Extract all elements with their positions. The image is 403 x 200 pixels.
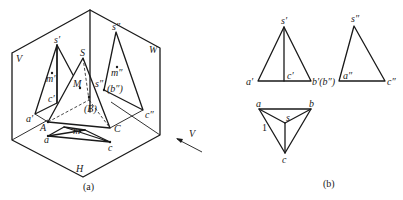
b-double-prime-label: (b″) xyxy=(107,83,123,95)
top-a-label: a xyxy=(256,98,261,109)
side-c-double-prime-label: c″ xyxy=(387,76,396,87)
m-h-label: m xyxy=(73,125,80,136)
front-a-prime-label: a′ xyxy=(246,76,254,87)
figure-a-caption: (a) xyxy=(83,181,94,193)
s-double-prime-side-point xyxy=(103,89,105,91)
a-prime-label: a′ xyxy=(26,113,34,124)
top-c-label: c xyxy=(282,154,287,165)
view-arrow-label: V xyxy=(189,128,197,139)
a-label: A xyxy=(39,122,47,133)
m-prime-label: m′ xyxy=(46,73,56,84)
w-projection-triangle xyxy=(104,32,143,110)
c-h-label: c xyxy=(108,142,113,153)
arrow-head-icon xyxy=(176,138,183,143)
top-edge-mark-label: 1 xyxy=(262,122,267,133)
b-label: (B) xyxy=(84,103,97,115)
spatial-pyramid xyxy=(47,58,110,128)
a-h-label: a xyxy=(44,134,49,145)
h-plane-label: H xyxy=(75,163,84,174)
projector-a xyxy=(35,114,48,122)
s-label: S xyxy=(80,47,85,58)
b-point xyxy=(88,96,90,98)
view-direction-arrow xyxy=(176,138,202,152)
m-label: M xyxy=(72,78,82,89)
s-double-prime-side-label: s″ xyxy=(95,78,104,89)
m-double-prime-label: m″ xyxy=(111,67,123,78)
c-double-prime-label: c″ xyxy=(145,109,154,120)
projection-diagram: V W H V s′ m′ c′ a′ S M (B) A C a m c s″… xyxy=(0,0,403,200)
top-s-label: s xyxy=(286,112,290,123)
side-a-double-prime-label: a″ xyxy=(343,70,353,81)
w-plane-label: W xyxy=(149,44,159,55)
v-plane-label: V xyxy=(16,53,24,64)
front-s-prime-label: s′ xyxy=(281,15,288,26)
s-prime-label: s′ xyxy=(54,34,61,45)
v-projection-edge xyxy=(57,45,73,75)
front-view xyxy=(258,27,311,81)
w-plane-projection xyxy=(103,32,143,110)
figure-b-caption: (b) xyxy=(323,178,335,190)
front-c-prime-label: c′ xyxy=(287,70,294,81)
side-s-double-prime-label: s″ xyxy=(351,13,360,24)
front-b-prime-label: b′(b″) xyxy=(312,76,336,88)
s-double-prime-label: s″ xyxy=(112,21,121,32)
c-prime-label: c′ xyxy=(48,93,55,104)
top-b-label: b xyxy=(309,98,314,109)
c-label: C xyxy=(114,123,121,134)
